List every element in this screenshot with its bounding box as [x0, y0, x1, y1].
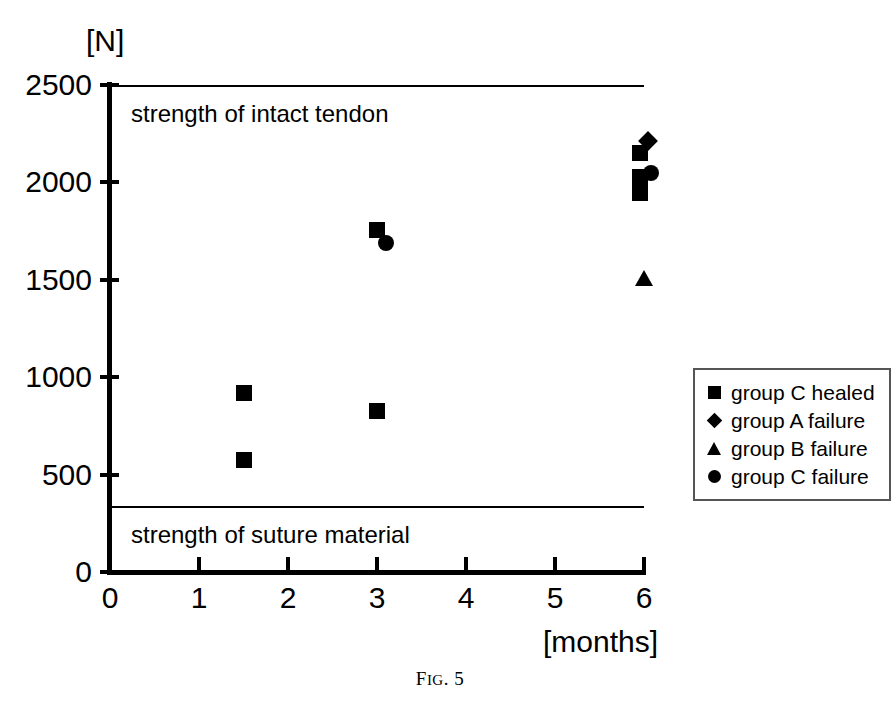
- x-axis-tick: [375, 557, 379, 575]
- x-axis-tick: [464, 557, 468, 575]
- y-axis-tick: [100, 473, 119, 477]
- legend-item-label: group C failure: [731, 466, 869, 487]
- x-axis-tick: [197, 557, 201, 575]
- x-axis-tick-label: 2: [268, 583, 308, 613]
- x-axis-tick: [642, 557, 646, 575]
- circle-data-point: [643, 165, 659, 181]
- square-data-point: [632, 185, 648, 201]
- reference-line-label: strength of suture material: [131, 523, 410, 547]
- x-axis-tick-label: 1: [179, 583, 219, 613]
- y-axis-tick: [100, 278, 119, 282]
- y-axis-tick: [100, 375, 119, 379]
- legend-item: group C failure: [705, 462, 875, 490]
- reference-line: [110, 506, 644, 508]
- square-data-point: [236, 452, 252, 468]
- x-axis-tick-label: 0: [90, 583, 130, 613]
- x-axis-tick-label: 3: [357, 583, 397, 613]
- circle-marker: [705, 470, 723, 483]
- x-axis-tick: [553, 557, 557, 575]
- x-axis-tick-label: 6: [624, 583, 664, 613]
- circle-data-point: [378, 235, 394, 251]
- y-axis-title: [N]: [86, 26, 124, 56]
- square-data-point: [369, 403, 385, 419]
- square-marker: [705, 386, 723, 399]
- legend-item-label: group A failure: [731, 410, 865, 431]
- y-axis-tick-label: 0: [6, 557, 92, 587]
- legend-item: group B failure: [705, 434, 875, 462]
- caption-suffix: . 5: [444, 668, 465, 689]
- square-data-point: [236, 385, 252, 401]
- caption-smallcaps: IG: [427, 672, 444, 688]
- legend: group C healedgroup A failuregroup B fai…: [693, 368, 891, 501]
- y-axis-tick-label: 2500: [6, 70, 92, 100]
- caption-prefix: F: [416, 668, 427, 689]
- y-axis-tick: [100, 570, 119, 574]
- x-axis-tick-label: 4: [446, 583, 486, 613]
- y-axis-tick-label: 1000: [6, 362, 92, 392]
- reference-line: [110, 85, 644, 87]
- triangle-marker: [705, 442, 723, 455]
- y-axis-tick-label: 2000: [6, 167, 92, 197]
- y-axis-tick-label: 500: [6, 460, 92, 490]
- figure-caption: FIG. 5: [0, 668, 880, 690]
- legend-item: group C healed: [705, 378, 875, 406]
- legend-item-label: group B failure: [731, 438, 868, 459]
- x-axis-title: [months]: [543, 627, 658, 657]
- reference-line-label: strength of intact tendon: [131, 102, 389, 126]
- diamond-marker: [705, 415, 723, 426]
- legend-item-label: group C healed: [731, 382, 875, 403]
- y-axis-line: [107, 82, 112, 575]
- y-axis-tick-label: 1500: [6, 265, 92, 295]
- legend-item: group A failure: [705, 406, 875, 434]
- x-axis-tick: [286, 557, 290, 575]
- triangle-data-point: [635, 270, 653, 286]
- y-axis-tick: [100, 180, 119, 184]
- x-axis-tick-label: 5: [535, 583, 575, 613]
